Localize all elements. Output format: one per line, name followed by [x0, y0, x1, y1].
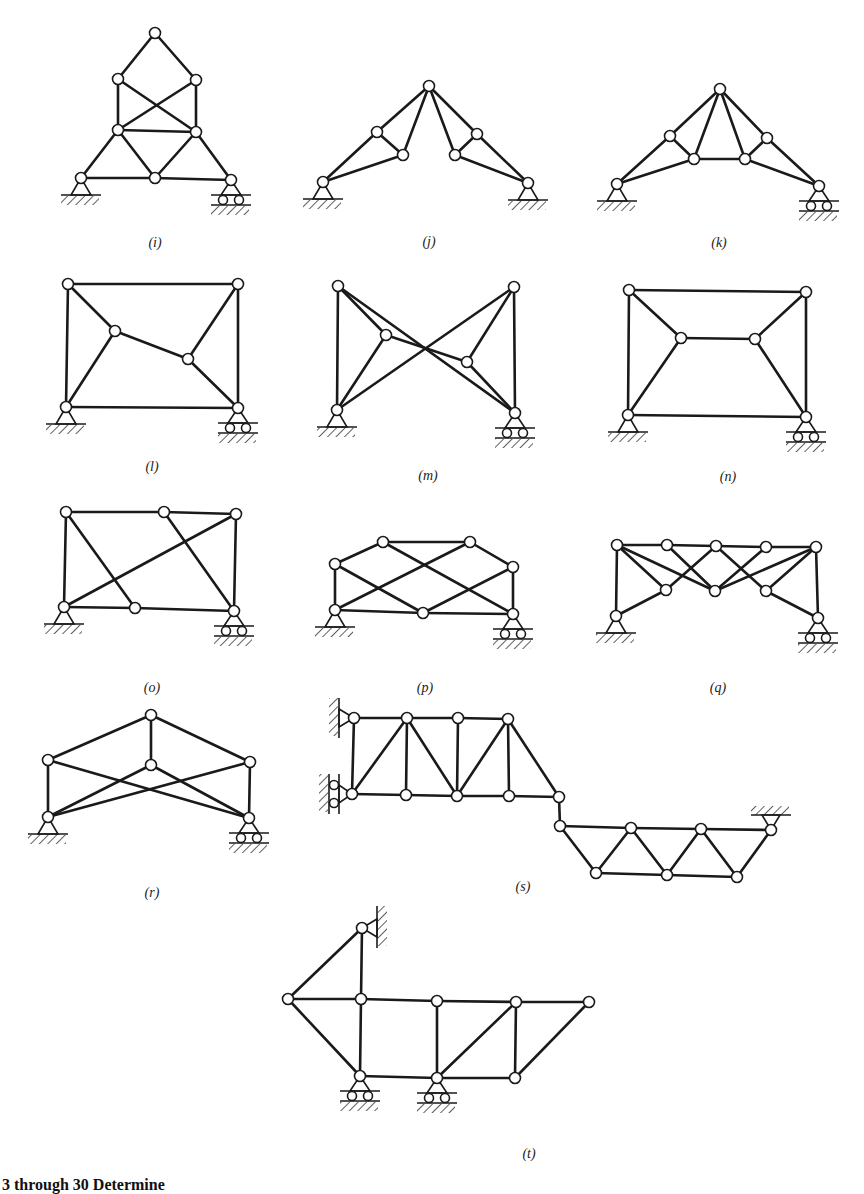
pin-joint — [511, 997, 522, 1008]
truss-member — [509, 796, 559, 797]
truss-member — [164, 512, 236, 514]
pin-joint — [814, 181, 825, 192]
truss-member — [628, 290, 629, 415]
pin-joint — [626, 823, 637, 834]
pin-joint — [110, 326, 121, 337]
pin-joint — [43, 755, 54, 766]
panel-label-t: (t) — [522, 1146, 535, 1162]
panel-j-members — [323, 86, 528, 183]
pin-joint — [750, 334, 761, 345]
truss-member — [361, 928, 362, 999]
panel-label-j: (j) — [422, 234, 435, 250]
pin-joint — [418, 608, 429, 619]
pin-joint — [462, 357, 473, 368]
pin-joint — [761, 586, 772, 597]
pin-joint — [245, 757, 256, 768]
pin-joint — [146, 760, 157, 771]
pin-joint — [761, 542, 772, 553]
pin-joint — [801, 287, 812, 298]
pin-joint — [318, 177, 329, 188]
pin-joint — [130, 603, 141, 614]
truss-member — [716, 546, 766, 547]
pin-joint — [398, 150, 409, 161]
truss-member — [234, 514, 236, 611]
pin-joint — [676, 333, 687, 344]
pin-joint — [355, 1071, 366, 1082]
truss-member — [457, 718, 458, 796]
pin-joint — [611, 611, 622, 622]
truss-member — [81, 130, 118, 178]
truss-member — [188, 359, 238, 408]
panel-label-i: (i) — [148, 235, 161, 251]
truss-member — [508, 719, 509, 796]
truss-member — [755, 292, 806, 339]
truss-member — [406, 795, 457, 796]
pin-joint — [510, 1073, 521, 1084]
truss-member — [766, 547, 816, 591]
panel-label-q: (q) — [710, 680, 726, 696]
pin-joint — [472, 129, 483, 140]
pin-joint — [508, 562, 519, 573]
truss-member — [477, 134, 528, 183]
panel-i-members — [81, 33, 231, 180]
pin-joint — [63, 279, 74, 290]
truss-member — [631, 828, 667, 875]
pin-joint — [813, 613, 824, 624]
panel-label-s: (s) — [516, 879, 531, 895]
truss-member — [515, 1002, 589, 1078]
panel-k-supports — [597, 184, 839, 221]
truss-member — [515, 1002, 516, 1078]
truss-member — [135, 608, 234, 611]
truss-member — [755, 339, 806, 417]
truss-member — [720, 89, 767, 138]
panel-m-members — [337, 286, 515, 413]
truss-member — [323, 132, 377, 182]
pin-joint — [624, 285, 635, 296]
pin-joint — [696, 824, 707, 835]
pin-joint — [732, 872, 743, 883]
pin-joint — [378, 537, 389, 548]
truss-member — [423, 613, 513, 614]
panel-o-members — [64, 512, 236, 611]
truss-member — [616, 545, 617, 616]
pin-joint — [333, 281, 344, 292]
truss-member — [596, 873, 667, 875]
pin-joint — [191, 75, 202, 86]
pin-joint — [226, 175, 237, 186]
truss-member — [338, 286, 386, 335]
truss-member — [352, 718, 407, 794]
pin-joint — [183, 354, 194, 365]
pin-joint — [231, 509, 242, 520]
panel-label-r: (r) — [145, 885, 160, 901]
pin-joint — [229, 606, 240, 617]
truss-member — [458, 718, 508, 719]
truss-member — [667, 875, 737, 877]
pin-joint — [689, 154, 700, 165]
truss-member — [118, 33, 155, 79]
truss-member — [720, 89, 745, 159]
pin-joint — [357, 923, 368, 934]
pin-joint — [591, 868, 602, 879]
pin-joint — [523, 178, 534, 189]
pin-joint — [710, 586, 721, 597]
pin-joint — [401, 790, 412, 801]
pin-joint — [191, 127, 202, 138]
panel-l-members — [66, 284, 238, 408]
truss-member — [407, 718, 457, 796]
truss-member — [681, 338, 755, 339]
panel-label-k: (k) — [711, 235, 727, 251]
pin-joint — [762, 133, 773, 144]
panel-n-supports — [608, 415, 826, 452]
truss-member — [64, 514, 236, 607]
pin-joint — [740, 154, 751, 165]
pin-joint — [59, 602, 70, 613]
pin-joint — [453, 713, 464, 724]
truss-member — [323, 155, 403, 182]
truss-member — [767, 138, 819, 186]
pin-joint — [330, 559, 341, 570]
pin-joint — [662, 540, 673, 551]
truss-member — [66, 284, 68, 407]
truss-member — [360, 999, 361, 1076]
truss-member — [360, 1076, 437, 1078]
